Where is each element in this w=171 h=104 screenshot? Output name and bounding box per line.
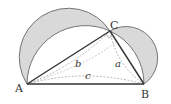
- point-label-c: C: [110, 19, 118, 32]
- side-label-c: c: [85, 70, 91, 81]
- point-label-a: A: [14, 82, 24, 95]
- point-label-b: B: [141, 88, 149, 101]
- lunes-diagram: A B C b a c: [0, 0, 171, 104]
- side-label-a: a: [115, 58, 121, 69]
- lune-ac: [19, 8, 110, 84]
- lune-bc: [110, 27, 158, 84]
- side-label-b: b: [75, 58, 81, 69]
- diagram-canvas: A B C b a c: [0, 0, 171, 104]
